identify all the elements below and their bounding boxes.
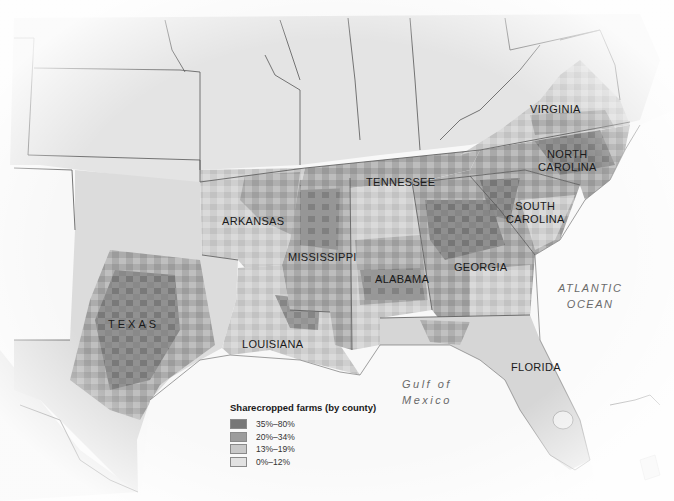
label-south-carolina: SOUTH CAROLINA bbox=[506, 200, 565, 226]
legend-item: 20%–34% bbox=[230, 431, 400, 444]
label-arkansas: ARKANSAS bbox=[222, 215, 284, 228]
label-atlantic-ocean: ATLANTIC OCEAN bbox=[558, 280, 622, 312]
legend-item: 0%–12% bbox=[230, 456, 400, 469]
label-texas: TEXAS bbox=[108, 318, 159, 331]
legend-swatch-20-34 bbox=[230, 432, 247, 442]
label-north-carolina-line2: CAROLINA bbox=[538, 161, 597, 174]
legend-label: 20%–34% bbox=[256, 432, 295, 442]
label-louisiana: LOUISIANA bbox=[242, 338, 303, 351]
legend-swatch-35-80 bbox=[230, 419, 247, 429]
label-georgia: GEORGIA bbox=[454, 261, 507, 274]
legend-swatch-13-19 bbox=[230, 444, 247, 454]
legend-swatch-0-12 bbox=[230, 457, 247, 467]
label-gulf-line2: Mexico bbox=[402, 392, 452, 408]
legend: Sharecropped farms (by county) 35%–80% 2… bbox=[230, 402, 400, 468]
sharecropping-map: VIRGINIA NORTH CAROLINA TENNESSEE SOUTH … bbox=[0, 0, 674, 501]
label-atlantic-line2: OCEAN bbox=[558, 296, 622, 312]
legend-title: Sharecropped farms (by county) bbox=[230, 402, 400, 413]
legend-label: 0%–12% bbox=[256, 457, 290, 467]
legend-item: 13%–19% bbox=[230, 443, 400, 456]
label-north-carolina-line1: NORTH bbox=[538, 148, 597, 161]
legend-label: 13%–19% bbox=[256, 444, 295, 454]
label-alabama: ALABAMA bbox=[375, 273, 429, 286]
label-gulf-line1: Gulf of bbox=[402, 376, 452, 392]
label-gulf-of-mexico: Gulf of Mexico bbox=[402, 376, 452, 408]
label-south-carolina-line1: SOUTH bbox=[506, 200, 565, 213]
label-north-carolina: NORTH CAROLINA bbox=[538, 148, 597, 174]
label-tennessee: TENNESSEE bbox=[366, 176, 435, 189]
label-florida: FLORIDA bbox=[511, 361, 561, 374]
label-atlantic-line1: ATLANTIC bbox=[558, 280, 622, 296]
label-south-carolina-line2: CAROLINA bbox=[506, 213, 565, 226]
legend-label: 35%–80% bbox=[256, 419, 295, 429]
label-virginia: VIRGINIA bbox=[530, 103, 581, 116]
legend-item: 35%–80% bbox=[230, 418, 400, 431]
label-mississippi: MISSISSIPPI bbox=[288, 251, 357, 264]
